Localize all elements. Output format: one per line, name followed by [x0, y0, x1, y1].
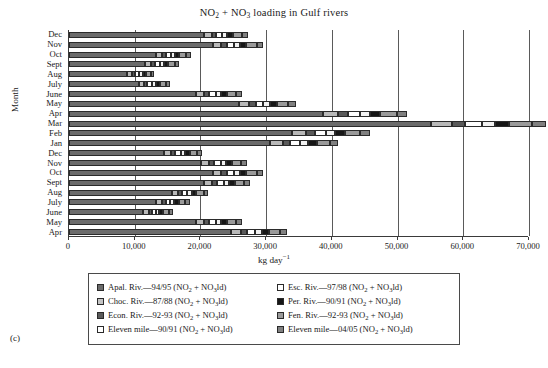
- y-axis-label: Jan: [51, 139, 62, 148]
- legend-item[interactable]: Econ. Riv.—92-93 (NO2 + NO3ld): [97, 308, 271, 322]
- bar-segment: [236, 91, 242, 97]
- bar-segment: [348, 111, 360, 117]
- bar-segment: [186, 52, 191, 58]
- bar-segment: [290, 140, 300, 146]
- bar-segment: [242, 32, 248, 38]
- bar-segment: [175, 61, 180, 67]
- legend-item[interactable]: Esc. Riv.—97/98 (NO2 + NO3ld): [277, 280, 451, 294]
- y-axis-label: June: [46, 90, 62, 99]
- y-axis-label: Sept: [47, 60, 62, 69]
- bar-segment: [326, 130, 335, 136]
- bar-segment: [345, 130, 360, 136]
- bar-segment: [69, 199, 156, 205]
- stacked-bar[interactable]: [69, 111, 407, 117]
- legend-swatch: [97, 312, 104, 319]
- x-tick-label: 60,000: [450, 241, 474, 251]
- bar-segment: [69, 160, 201, 166]
- x-tick-label: 30,000: [253, 241, 277, 251]
- bar-row: [69, 69, 528, 79]
- y-axis-label: May: [46, 218, 62, 227]
- stacked-bar[interactable]: [69, 121, 546, 127]
- stacked-bar[interactable]: [69, 101, 296, 107]
- stacked-bar[interactable]: [69, 170, 263, 176]
- stacked-bar[interactable]: [69, 91, 242, 97]
- y-axis-label: Aug: [47, 188, 62, 197]
- x-tick-mark: [199, 237, 200, 240]
- bar-segment: [196, 91, 204, 97]
- stacked-bar[interactable]: [69, 42, 263, 48]
- stacked-bar[interactable]: [69, 229, 287, 235]
- stacked-bar[interactable]: [69, 130, 370, 136]
- legend-item[interactable]: Eleven mile—04/05 (NO2 + NO3ld): [277, 322, 451, 336]
- bar-rows: [69, 30, 528, 236]
- legend-label: Fen. Riv.—92-93 (NO2 + NO3ld): [288, 310, 403, 320]
- bar-row: [69, 79, 528, 89]
- stacked-bar[interactable]: [69, 209, 173, 215]
- legend-item[interactable]: Choc. Riv.—87/88 (NO2 + NO3ld): [97, 294, 271, 308]
- bar-segment: [69, 150, 164, 156]
- bar-segment: [452, 121, 465, 127]
- stacked-bar[interactable]: [69, 180, 250, 186]
- bar-segment: [244, 180, 250, 186]
- bar-segment: [380, 111, 396, 117]
- bar-segment: [69, 190, 172, 196]
- bar-segment: [239, 101, 249, 107]
- bar-segment: [231, 229, 241, 235]
- bar-segment: [262, 229, 269, 235]
- stacked-bar[interactable]: [69, 81, 170, 87]
- bar-segment: [232, 160, 241, 166]
- x-tick-label: 70,000: [516, 241, 540, 251]
- bar-segment: [323, 111, 338, 117]
- bar-segment: [482, 121, 495, 127]
- x-tick-label: 0: [66, 241, 70, 251]
- stacked-bar[interactable]: [69, 150, 202, 156]
- title-no2-text: NO: [200, 7, 216, 18]
- y-axis-label: July: [48, 80, 62, 89]
- bar-row: [69, 109, 528, 119]
- bar-segment: [370, 111, 381, 117]
- legend-item[interactable]: Fen. Riv.—92-93 (NO2 + NO3ld): [277, 308, 451, 322]
- stacked-bar[interactable]: [69, 160, 247, 166]
- x-tick-mark: [265, 237, 266, 240]
- bar-segment: [270, 140, 282, 146]
- bar-segment: [201, 160, 209, 166]
- bar-segment: [227, 42, 234, 48]
- stacked-bar[interactable]: [69, 140, 338, 146]
- legend-item[interactable]: Eleven mile—90/91 (NO2 + NO3ld): [97, 322, 271, 336]
- y-axis-label: Oct: [50, 50, 62, 59]
- stacked-bar[interactable]: [69, 71, 154, 77]
- bar-segment: [190, 150, 197, 156]
- legend-label: Eleven mile—90/91 (NO2 + NO3ld): [108, 324, 233, 334]
- chart-title: NO2 + NO3 loading in Gulf rivers: [0, 7, 548, 18]
- bar-segment: [213, 170, 222, 176]
- bar-segment: [233, 32, 242, 38]
- stacked-bar[interactable]: [69, 219, 242, 225]
- bar-segment: [270, 101, 277, 107]
- x-axis-title: kg day−1: [0, 253, 548, 265]
- y-axis-label: May: [46, 99, 62, 108]
- bar-segment: [283, 140, 291, 146]
- bar-segment: [269, 229, 280, 235]
- y-axis-label: July: [48, 198, 62, 207]
- stacked-bar[interactable]: [69, 61, 179, 67]
- bar-segment: [227, 219, 236, 225]
- bar-row: [69, 217, 528, 227]
- bar-segment: [235, 180, 244, 186]
- legend-item[interactable]: Per. Riv.—90/91 (NO2 + NO3ld): [277, 294, 451, 308]
- stacked-bar[interactable]: [69, 199, 190, 205]
- bar-row: [69, 148, 528, 158]
- stacked-bar[interactable]: [69, 32, 248, 38]
- bar-segment: [69, 42, 213, 48]
- stacked-bar[interactable]: [69, 52, 191, 58]
- bar-segment: [69, 219, 196, 225]
- bar-segment: [317, 140, 330, 146]
- bar-row: [69, 89, 528, 99]
- bar-segment: [495, 121, 509, 127]
- bar-segment: [465, 121, 481, 127]
- legend-swatch: [277, 312, 284, 319]
- stacked-bar[interactable]: [69, 190, 208, 196]
- bar-segment: [204, 190, 209, 196]
- bar-segment: [246, 42, 257, 48]
- bar-segment: [257, 170, 264, 176]
- legend-item[interactable]: Apal. Riv.—94/95 (NO2 + NO3ld): [97, 280, 271, 294]
